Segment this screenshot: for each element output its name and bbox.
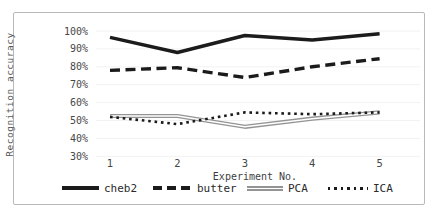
- x-tick-label: 2: [174, 157, 180, 169]
- y-tick-label: 30%: [70, 151, 88, 162]
- chart-canvas: 100%90%80%70%60%50%40%30%12345: [0, 0, 435, 215]
- x-tick-label: 3: [242, 157, 248, 169]
- y-tick-label: 100%: [64, 26, 88, 37]
- x-tick-label: 4: [309, 157, 315, 169]
- x-tick-label: 5: [376, 157, 382, 169]
- y-tick-label: 50%: [70, 115, 88, 126]
- y-tick-label: 80%: [70, 61, 88, 72]
- y-tick-label: 70%: [70, 79, 88, 90]
- y-axis-label: Recognition accuracy: [4, 30, 17, 160]
- series-line-butter: [110, 59, 380, 78]
- series-line-cheb2: [110, 34, 380, 53]
- y-tick-label: 40%: [70, 133, 88, 144]
- y-tick-label: 90%: [70, 43, 88, 54]
- x-axis-title: Experiment No.: [195, 171, 315, 182]
- x-tick-label: 1: [107, 157, 113, 169]
- y-tick-label: 60%: [70, 97, 88, 108]
